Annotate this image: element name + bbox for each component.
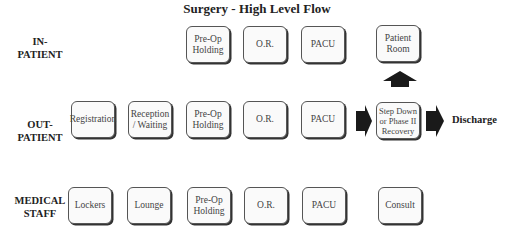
- box-outpatient-reception: Reception / Waiting: [128, 101, 172, 138]
- box-outpatient-or: O.R.: [243, 101, 287, 138]
- row-label-line: STAFF: [5, 207, 75, 220]
- box-staff-lockers: Lockers: [68, 187, 112, 224]
- box-staff-consult: Consult: [378, 187, 422, 224]
- box-outpatient-step-down: Step Down or Phase II Recovery: [376, 102, 420, 139]
- box-inpatient-preop: Pre-Op Holding: [186, 26, 230, 63]
- box-staff-lounge: Lounge: [127, 187, 171, 224]
- right-arrow-icon: [425, 104, 445, 138]
- row-label-line: PATIENT: [5, 48, 75, 61]
- diagram-title: Surgery - High Level Flow: [0, 1, 514, 17]
- box-outpatient-preop: Pre-Op Holding: [186, 101, 230, 138]
- discharge-label: Discharge: [452, 114, 497, 125]
- box-staff-pacu: PACU: [302, 187, 346, 224]
- row-label-line: OUT-: [5, 118, 75, 131]
- row-label-outpatient: OUT- PATIENT: [5, 118, 75, 144]
- box-inpatient-or: O.R.: [243, 26, 287, 63]
- box-staff-or: O.R.: [244, 187, 288, 224]
- row-label-staff: MEDICAL STAFF: [5, 194, 75, 220]
- up-arrow-icon: [382, 70, 418, 88]
- box-staff-preop: Pre-Op Holding: [187, 187, 231, 224]
- box-inpatient-patient-room: Patient Room: [376, 25, 420, 62]
- row-label-line: IN-: [5, 35, 75, 48]
- row-label-inpatient: IN- PATIENT: [5, 35, 75, 61]
- row-label-line: PATIENT: [5, 131, 75, 144]
- box-outpatient-pacu: PACU: [301, 101, 345, 138]
- box-outpatient-registration: Registration: [71, 101, 115, 138]
- right-arrow-icon: [355, 104, 373, 138]
- row-label-line: MEDICAL: [5, 194, 75, 207]
- box-inpatient-pacu: PACU: [301, 26, 345, 63]
